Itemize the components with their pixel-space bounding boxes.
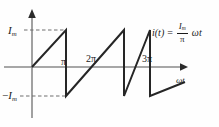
equation-fraction: Im π xyxy=(177,22,188,44)
x-tick-label-3pi: 3π xyxy=(142,54,152,64)
plot-canvas xyxy=(0,0,219,127)
equation-tail: ωt xyxy=(192,27,202,38)
y-axis-label-peak: Im xyxy=(8,25,17,37)
x-axis-label: ωt xyxy=(176,76,185,85)
x-tick-label-2pi: 2π xyxy=(86,54,96,64)
fraction-numerator: Im xyxy=(178,22,187,33)
x-axis-arrowhead xyxy=(180,63,188,71)
sawtooth-waveform-figure: Im −Im π 2π 3π ωt i(t) = Im π ωt xyxy=(0,0,219,127)
x-tick-label-pi: π xyxy=(61,57,66,67)
trough-subscript: m xyxy=(12,95,17,102)
equation-annotation: i(t) = Im π ωt xyxy=(152,22,202,44)
y-axis-label-trough: −Im xyxy=(2,90,17,102)
equation-lhs: i(t) xyxy=(152,27,164,38)
peak-subscript: m xyxy=(12,30,17,37)
fraction-denominator: π xyxy=(179,34,186,44)
y-axis-arrowhead xyxy=(28,9,36,18)
time-symbol: t xyxy=(182,75,185,85)
equation-equals: = xyxy=(167,27,173,38)
